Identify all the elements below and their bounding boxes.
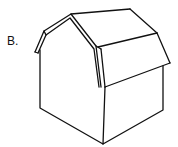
figure-canvas: B. bbox=[0, 0, 178, 147]
roof bbox=[71, 9, 170, 87]
gambrel-barn-illustration bbox=[0, 0, 178, 147]
left-wall bbox=[40, 50, 103, 144]
right-wall bbox=[103, 66, 163, 144]
gable-trim bbox=[35, 14, 105, 87]
